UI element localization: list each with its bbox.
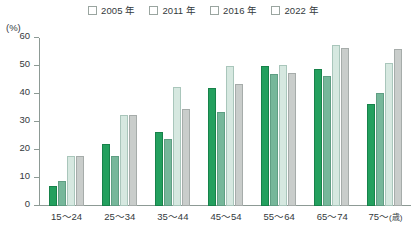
y-tick-label-60: 60 (19, 30, 30, 41)
legend-label-2016: 2016 年 (223, 3, 257, 17)
bar[interactable] (341, 48, 349, 206)
bar-groups (40, 38, 411, 206)
legend-item-2022: 2022 年 (271, 3, 318, 17)
bar[interactable] (376, 93, 384, 206)
bar[interactable] (279, 65, 287, 206)
bar-group (146, 38, 199, 206)
x-axis-label: 15〜24 (40, 209, 93, 223)
bar-group (252, 38, 305, 206)
y-tick-40: 40 (34, 93, 39, 94)
y-tick-30: 30 (34, 121, 39, 122)
legend-label-2005: 2005 年 (101, 3, 135, 17)
bar[interactable] (182, 109, 190, 206)
y-tick-label-0: 0 (25, 198, 30, 209)
bar[interactable] (226, 66, 234, 206)
bar[interactable] (120, 115, 128, 206)
legend-item-2011: 2011 年 (149, 3, 196, 17)
bar[interactable] (323, 76, 331, 206)
bar[interactable] (58, 181, 66, 206)
x-axis-label: 25〜34 (93, 209, 146, 223)
bar[interactable] (49, 186, 57, 206)
plot-area: 0102030405060 (39, 38, 411, 206)
legend-swatch-icon-2005 (88, 6, 97, 15)
y-tick-60: 60 (34, 37, 39, 38)
bar[interactable] (208, 88, 216, 206)
legend-label-2011: 2011 年 (162, 3, 196, 17)
bar[interactable] (102, 144, 110, 206)
legend-swatch-icon-2016 (210, 6, 219, 15)
bar[interactable] (314, 69, 322, 206)
bar-group (93, 38, 146, 206)
legend-swatch-icon-2022 (271, 6, 280, 15)
bar[interactable] (394, 49, 402, 206)
legend-item-2016: 2016 年 (210, 3, 257, 17)
bar[interactable] (155, 132, 163, 206)
bar[interactable] (270, 74, 278, 206)
y-tick-0: 0 (34, 205, 39, 206)
y-tick-label-20: 20 (19, 142, 30, 153)
chart-legend: 2005 年 2011 年 2016 年 2022 年 (88, 3, 319, 17)
x-axis-label: 35〜44 (146, 209, 199, 223)
x-axis-label: 45〜54 (199, 209, 252, 223)
legend-item-2005: 2005 年 (88, 3, 135, 17)
bar[interactable] (367, 104, 375, 206)
bar-group (199, 38, 252, 206)
bar-chart: 2005 年 2011 年 2016 年 2022 年 (%) 01020304… (0, 0, 419, 239)
x-axis-label: 75〜(歳) (359, 209, 412, 223)
bar[interactable] (111, 156, 119, 206)
y-tick-10: 10 (34, 177, 39, 178)
x-axis-labels: 15〜2425〜3435〜4445〜5455〜6465〜7475〜(歳) (40, 209, 412, 223)
legend-label-2022: 2022 年 (284, 3, 318, 17)
y-tick-50: 50 (34, 65, 39, 66)
bar[interactable] (217, 112, 225, 206)
bar[interactable] (235, 84, 243, 206)
y-tick-20: 20 (34, 149, 39, 150)
y-tick-label-10: 10 (19, 170, 30, 181)
x-axis-label: 65〜74 (306, 209, 359, 223)
y-tick-label-50: 50 (19, 58, 30, 69)
bar[interactable] (332, 45, 340, 206)
bar-group (358, 38, 411, 206)
y-tick-label-30: 30 (19, 114, 30, 125)
bar[interactable] (129, 115, 137, 206)
x-axis-label: 55〜64 (253, 209, 306, 223)
bar[interactable] (67, 156, 75, 206)
bar[interactable] (76, 156, 84, 206)
bar-group (305, 38, 358, 206)
bar-group (40, 38, 93, 206)
bar[interactable] (164, 139, 172, 206)
x-axis-unit-label: (歳) (389, 213, 402, 222)
bar[interactable] (173, 87, 181, 206)
legend-swatch-icon-2011 (149, 6, 158, 15)
bar[interactable] (288, 73, 296, 206)
y-tick-label-40: 40 (19, 86, 30, 97)
bar[interactable] (261, 66, 269, 206)
bar[interactable] (385, 63, 393, 206)
